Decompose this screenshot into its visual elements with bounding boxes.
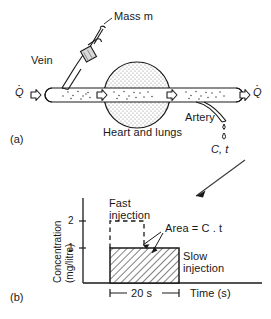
slow-injection-label-line1: Slow: [183, 250, 207, 262]
fast-injection-label-line1: Fast: [109, 197, 131, 209]
panel-b-chart: [79, 198, 262, 300]
figure-drawing: [0, 0, 271, 319]
fast-injection-label-line2: injection: [109, 209, 150, 221]
mass-label: Mass m: [114, 10, 153, 22]
y-axis-title-line2: (mg/litre): [64, 244, 75, 283]
y-axis-title: Concentration: [52, 221, 63, 283]
vein-branch: [62, 67, 81, 90]
flow-out-label: Q: [253, 86, 262, 98]
syringe-icon: [75, 18, 112, 67]
y-tick-label-2: 2: [68, 215, 74, 227]
panel-connector-arrow: [196, 160, 245, 198]
figure-container: Mass m Vein Artery Heart and lungs ˙ Q ˙…: [0, 0, 271, 319]
x-axis-title: Time (s): [190, 287, 231, 299]
y-axis-title-line1: Concentration: [52, 221, 63, 283]
artery-label: Artery: [185, 111, 215, 123]
vein-label: Vein: [31, 54, 53, 66]
droplet-icon: [223, 124, 226, 139]
blood-vessel-overlay: [104, 88, 170, 102]
slow-injection-label-line2: injection: [183, 262, 224, 274]
duration-label: 20 s: [131, 287, 152, 299]
slow-injection-rectangle: [110, 248, 179, 283]
area-equation-label: Area = C . t: [165, 222, 222, 234]
sample-label: C, t: [211, 143, 229, 155]
heart-and-lungs-label: Heart and lungs: [103, 126, 182, 138]
panel-a-caption: (a): [10, 133, 23, 145]
panel-a-diagram: [31, 18, 250, 139]
panel-b-caption: (b): [10, 291, 23, 303]
y-axis-title-units: (mg/litre): [64, 244, 75, 283]
flow-in-label: Q: [15, 86, 24, 98]
